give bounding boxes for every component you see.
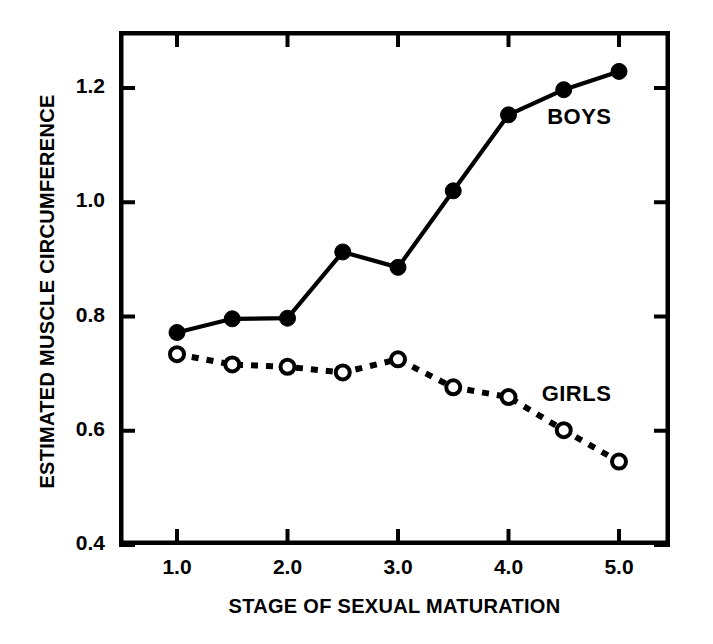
x-axis-title-text: STAGE OF SEXUAL MATURATION <box>229 595 561 617</box>
chart-figure: 1.02.03.04.05.0 0.40.60.81.01.2 ESTIMATE… <box>0 0 713 644</box>
data-point <box>336 365 350 379</box>
data-point <box>280 310 296 326</box>
data-point <box>225 357 239 371</box>
data-point <box>611 63 627 79</box>
data-point <box>557 423 571 437</box>
data-point <box>390 259 406 275</box>
x-tick-label: 2.0 <box>248 555 328 579</box>
data-point <box>335 244 351 260</box>
series-line-girls <box>177 354 619 461</box>
y-axis-title-text: ESTIMATED MUSCLE CIRCUMFERENCE <box>36 94 58 488</box>
data-point <box>556 82 572 98</box>
data-point <box>445 183 461 199</box>
x-tick-label: 4.0 <box>469 555 549 579</box>
y-axis-title: ESTIMATED MUSCLE CIRCUMFERENCE <box>36 32 59 552</box>
data-point <box>281 360 295 374</box>
data-point <box>391 352 405 366</box>
x-axis-title: STAGE OF SEXUAL MATURATION <box>119 595 670 618</box>
data-point <box>446 380 460 394</box>
data-point <box>170 347 184 361</box>
plot-canvas <box>0 0 713 644</box>
data-point <box>224 311 240 327</box>
x-tick-label: 3.0 <box>358 555 438 579</box>
data-point <box>169 324 185 340</box>
x-tick-label: 1.0 <box>137 555 217 579</box>
series-label-girls: GIRLS <box>542 381 612 407</box>
x-tick-label: 5.0 <box>579 555 659 579</box>
data-point <box>501 107 517 123</box>
data-point <box>502 390 516 404</box>
series-label-boys: BOYS <box>547 104 611 130</box>
data-point <box>612 455 626 469</box>
